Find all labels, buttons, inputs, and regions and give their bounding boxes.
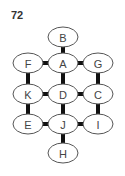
node-label: G — [94, 58, 103, 70]
node-label: J — [60, 119, 66, 131]
node-label: E — [24, 119, 31, 131]
node-label: H — [59, 148, 67, 160]
node-label: K — [24, 89, 32, 101]
node-i: I — [83, 114, 113, 134]
node-d: D — [48, 84, 78, 104]
node-f: F — [13, 53, 43, 73]
node-g: G — [83, 53, 113, 73]
node-label: I — [96, 119, 99, 131]
nodes-group: BFAGKDCEJIH — [13, 27, 113, 163]
node-graph-diagram: BFAGKDCEJIH — [0, 0, 125, 176]
node-label: A — [59, 58, 67, 70]
node-label: D — [59, 89, 67, 101]
node-label: C — [94, 89, 102, 101]
node-a: A — [48, 53, 78, 73]
node-b: B — [48, 27, 78, 47]
node-c: C — [83, 84, 113, 104]
node-label: F — [25, 58, 32, 70]
node-h: H — [48, 143, 78, 163]
node-e: E — [13, 114, 43, 134]
node-k: K — [13, 84, 43, 104]
node-label: B — [59, 32, 66, 44]
node-j: J — [48, 114, 78, 134]
